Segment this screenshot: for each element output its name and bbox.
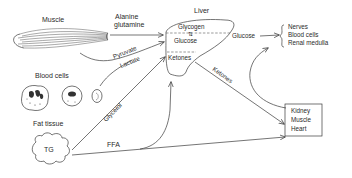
glucose-target-renal-medulla: Renal medulla [288,39,329,46]
fat-tissue-group: Fat tissue TG [32,120,69,164]
ffa-label: FFA [107,141,120,148]
tg-label: TG [44,146,54,153]
return-curve-arrow [250,48,286,108]
glucose-out-label: Glucose [232,32,256,39]
neutrophil-icon [21,85,48,110]
blood-cells-group: Blood cells [21,72,102,111]
ketones-liver-label: Ketones [168,54,191,61]
fuel-targets-box: Kidney Muscle Heart [285,104,322,136]
glucose-liver-label: Glucose [174,37,198,44]
ketones-out-arrow [195,62,284,124]
fuel-target-kidney: Kidney [291,107,311,115]
metabolic-diagram: Muscle Alanine glutamine Pyruvate Lactat… [0,0,352,178]
ffa-arrow [72,137,285,155]
lymphocyte-icon [62,86,82,106]
red-blood-cell-icon [92,90,102,103]
liver-label: Liver [194,7,210,14]
glutamine-label: glutamine [114,21,144,29]
blood-cells-label: Blood cells [35,72,69,79]
fuel-target-muscle: Muscle [291,116,311,123]
glucose-targets-brace [280,25,284,47]
glucose-target-blood-cells: Blood cells [288,31,318,38]
glucose-out-arrow [260,35,279,36]
glucose-target-nerves: Nerves [288,23,308,30]
fuel-target-heart: Heart [291,125,307,132]
fat-tissue-label: Fat tissue [33,120,63,127]
muscle-fiber-icon [14,29,108,49]
ffa-to-liver-arrow [140,82,171,149]
glycerol-label: Glycerol [102,101,124,123]
muscle-label: Muscle [42,16,64,23]
alanine-label: Alanine [115,13,138,20]
muscle-group: Muscle [14,16,108,48]
interconversion-icon: ⇅ [188,30,193,37]
